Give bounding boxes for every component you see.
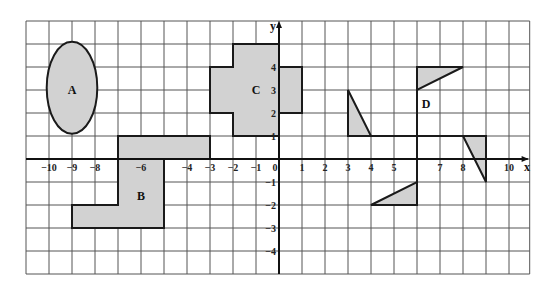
x-tick-label: −4	[182, 162, 193, 173]
x-tick-label: −8	[90, 162, 101, 173]
x-tick-label: 7	[438, 162, 443, 173]
shape-label-d: D	[422, 97, 431, 111]
shape-label-b: B	[137, 189, 145, 203]
x-axis-label: x	[524, 160, 530, 174]
y-tick-label: −1	[265, 177, 276, 188]
shape-label-c: C	[252, 83, 261, 97]
x-tick-label: −6	[136, 162, 147, 173]
x-tick-label: 8	[461, 162, 466, 173]
shape-d	[348, 67, 486, 205]
x-tick-label: −1	[251, 162, 262, 173]
y-tick-label: −2	[265, 200, 276, 211]
y-tick-label: −3	[265, 223, 276, 234]
x-tick-label: 0	[273, 162, 278, 173]
x-tick-label: 10	[504, 162, 514, 173]
x-tick-label: 4	[369, 162, 374, 173]
y-axis-arrow-icon	[276, 21, 282, 28]
x-tick-label: 2	[323, 162, 328, 173]
y-axis-label: y	[270, 19, 276, 33]
x-tick-label: 3	[346, 162, 351, 173]
x-tick-label: −3	[205, 162, 216, 173]
y-tick-label: 4	[271, 62, 276, 73]
x-tick-label: 1	[300, 162, 305, 173]
y-tick-label: 1	[271, 131, 276, 142]
x-tick-label: −10	[41, 162, 57, 173]
y-tick-label: 3	[271, 85, 276, 96]
x-tick-label: 5	[392, 162, 397, 173]
x-tick-label: −2	[228, 162, 239, 173]
x-tick-label: −9	[67, 162, 78, 173]
coordinate-grid-diagram: x y −10−9−8−6−4−3−2−101234578104321−1−2−…	[0, 0, 552, 289]
y-tick-label: 2	[271, 108, 276, 119]
shape-label-a: A	[68, 83, 77, 97]
coordinate-plane: x y −10−9−8−6−4−3−2−101234578104321−1−2−…	[0, 0, 552, 289]
y-tick-label: −4	[265, 246, 276, 257]
